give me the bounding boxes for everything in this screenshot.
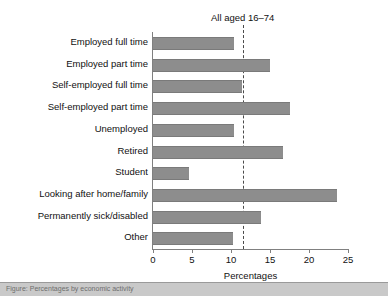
bar-row: Student	[153, 162, 348, 184]
reference-line-label: All aged 16–74	[211, 12, 274, 23]
bar-row: Permanently sick/disabled	[153, 206, 348, 228]
x-tick-label: 10	[216, 254, 246, 266]
bar	[153, 146, 283, 159]
x-tick-mark	[270, 249, 271, 253]
bar-row: Looking after home/family	[153, 184, 348, 206]
category-label: Retired	[3, 145, 148, 157]
category-label: Other	[3, 231, 148, 243]
category-label: Student	[3, 166, 148, 178]
bar-row: Self-employed part time	[153, 97, 348, 119]
x-tick-label: 5	[177, 254, 207, 266]
x-tick-label: 0	[138, 254, 168, 266]
x-tick-label: 20	[294, 254, 324, 266]
bar-row: Employed full time	[153, 32, 348, 54]
category-label: Unemployed	[3, 123, 148, 135]
caption-text: Figure: Percentages by economic activity	[6, 285, 134, 292]
x-tick-mark	[153, 249, 154, 253]
x-tick-mark	[309, 249, 310, 253]
x-tick-mark	[348, 249, 349, 253]
bar-row: Unemployed	[153, 119, 348, 141]
bar	[153, 80, 242, 93]
x-axis-title: Percentages	[153, 270, 348, 281]
x-tick-mark	[231, 249, 232, 253]
bar	[153, 124, 234, 137]
bar-row: Retired	[153, 141, 348, 163]
bar	[153, 59, 270, 72]
bar	[153, 211, 261, 224]
category-label: Self-employed full time	[3, 79, 148, 91]
bar	[153, 232, 233, 245]
category-label: Looking after home/family	[3, 188, 148, 200]
value-axis-line	[152, 249, 349, 250]
bar-row: Self-employed full time	[153, 75, 348, 97]
caption-strip: Figure: Percentages by economic activity	[0, 282, 388, 296]
x-tick-label: 25	[333, 254, 363, 266]
category-label: Self-employed part time	[3, 101, 148, 113]
bar	[153, 37, 234, 50]
category-label: Employed full time	[3, 36, 148, 48]
category-label: Permanently sick/disabled	[3, 210, 148, 222]
bar-row: Other	[153, 227, 348, 249]
bar-row: Employed part time	[153, 54, 348, 76]
x-tick-mark	[192, 249, 193, 253]
category-label: Employed part time	[3, 58, 148, 70]
x-tick-label: 15	[255, 254, 285, 266]
bar	[153, 189, 337, 202]
bar	[153, 102, 290, 115]
bar	[153, 167, 189, 180]
